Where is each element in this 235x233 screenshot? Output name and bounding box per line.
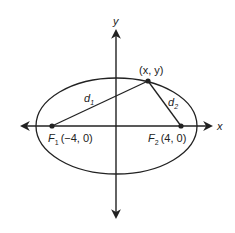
focus-point-f2	[178, 123, 183, 128]
focus-point-f1	[49, 123, 54, 128]
f2-coords: (4, 0)	[161, 132, 187, 144]
d2-label: d2	[168, 96, 178, 110]
f1-label: F1(−4, 0)	[48, 132, 93, 146]
x-axis-label: x	[216, 120, 223, 132]
f2-label: F2(4, 0)	[148, 132, 186, 146]
ellipse-point	[145, 78, 150, 83]
f1-sub: 1	[55, 139, 59, 146]
d1-label: d1	[84, 92, 94, 106]
ellipse-diagram: x y (x, y) d1 d2 F1(−4, 0) F2(4, 0)	[0, 0, 235, 233]
d1-sub: 1	[90, 99, 94, 106]
d2-sub: 2	[173, 103, 178, 110]
point-label: (x, y)	[139, 64, 163, 76]
f1-coords: (−4, 0)	[61, 132, 93, 144]
f2-sub: 2	[155, 139, 159, 146]
y-axis-label: y	[112, 15, 120, 27]
